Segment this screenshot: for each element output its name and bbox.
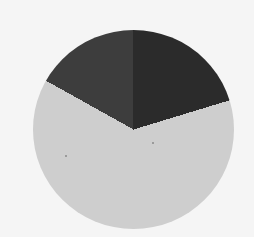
- data-marker-speck: [152, 142, 154, 144]
- pie-chart: [33, 30, 234, 229]
- data-marker-speck: [65, 155, 67, 157]
